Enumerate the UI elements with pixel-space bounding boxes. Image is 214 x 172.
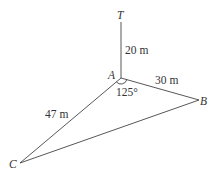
point-label-b: B	[200, 95, 207, 107]
point-label-t: T	[117, 9, 125, 21]
point-label-a: A	[107, 69, 116, 81]
angle-label-cab: 125°	[116, 86, 138, 98]
point-label-c: C	[9, 158, 17, 170]
segment-ac	[20, 78, 121, 163]
segment-label-ac: 47 m	[45, 108, 68, 120]
segment-label-at: 20 m	[125, 44, 148, 56]
diagram-canvas: T A B C 20 m 30 m 47 m 125°	[0, 0, 214, 172]
segment-label-ab: 30 m	[155, 74, 178, 86]
